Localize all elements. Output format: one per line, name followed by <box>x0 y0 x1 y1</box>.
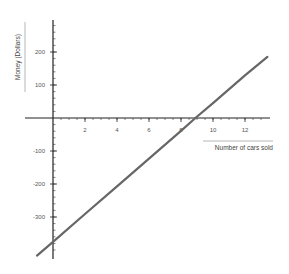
x-tick-label: 2 <box>83 127 87 133</box>
y-tick-label: -100 <box>33 148 46 154</box>
x-major-ticks: 24681012 <box>83 118 249 133</box>
x-tick-label: 10 <box>210 127 217 133</box>
x-tick-label: 12 <box>242 127 249 133</box>
y-tick-label: -300 <box>33 214 46 220</box>
x-axis-title: Number of cars sold <box>215 144 274 151</box>
line-chart: 24681012 200100-100-200-300 Money (Dolla… <box>0 0 289 274</box>
y-tick-label: 200 <box>35 49 46 55</box>
x-tick-label: 4 <box>115 127 119 133</box>
data-line <box>37 57 267 256</box>
x-tick-label: 6 <box>147 127 151 133</box>
y-axis-title: Money (Dollars) <box>14 34 22 80</box>
y-tick-label: -200 <box>33 181 46 187</box>
y-tick-label: 100 <box>35 82 46 88</box>
